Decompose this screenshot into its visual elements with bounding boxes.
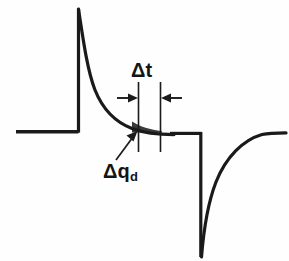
exponential-recovery-segment	[202, 133, 287, 257]
waveform-figure: Δt Δqd	[0, 0, 289, 261]
delta-t-dimension-arrows	[117, 94, 182, 103]
signal-trace-group	[16, 9, 286, 257]
delta-qd-leader-arrow	[116, 131, 138, 160]
exponential-decay-segment	[79, 9, 175, 135]
delta-t-label: Δt	[131, 60, 152, 80]
delta-qd-arrow-shaft	[116, 139, 132, 160]
delta-qd-label-subscript: d	[130, 169, 138, 184]
delta-qd-label-main: Δq	[103, 160, 130, 182]
delta-t-right-arrow-head	[161, 94, 171, 103]
delta-t-left-arrow-head	[128, 94, 138, 103]
waveform-chart	[0, 0, 289, 261]
delta-t-marker-lines	[139, 82, 161, 152]
delta-qd-label: Δqd	[103, 161, 138, 181]
